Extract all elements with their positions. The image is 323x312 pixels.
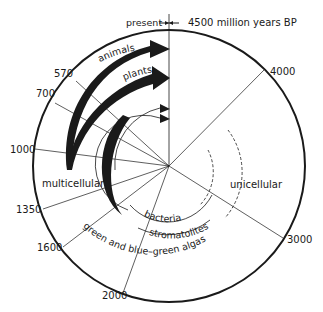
tick-1000: 1000 [10,144,35,155]
tick-700: 700 [36,88,55,99]
bp-label: 4500 million years BP [188,17,297,28]
plants-arrow [68,66,170,170]
tick-570: 570 [54,68,73,79]
tick-3000: 3000 [287,234,312,245]
tick-1350: 1350 [16,204,41,215]
animals-label: animals [96,42,136,64]
tick-1600: 1600 [37,242,62,253]
tick-4000: 4000 [270,66,295,77]
unicellular-dashed-arc-outer [225,130,242,218]
unicellular-label: unicellular [230,179,283,190]
tick-2000: 2000 [102,290,127,301]
multicellular-label: multicellular [42,178,105,189]
animals-arrow [66,40,170,170]
present-label: present [126,17,162,28]
evolution-clock-diagram: 570 700 1000 1350 1600 2000 3000 4000 pr… [0,0,323,312]
